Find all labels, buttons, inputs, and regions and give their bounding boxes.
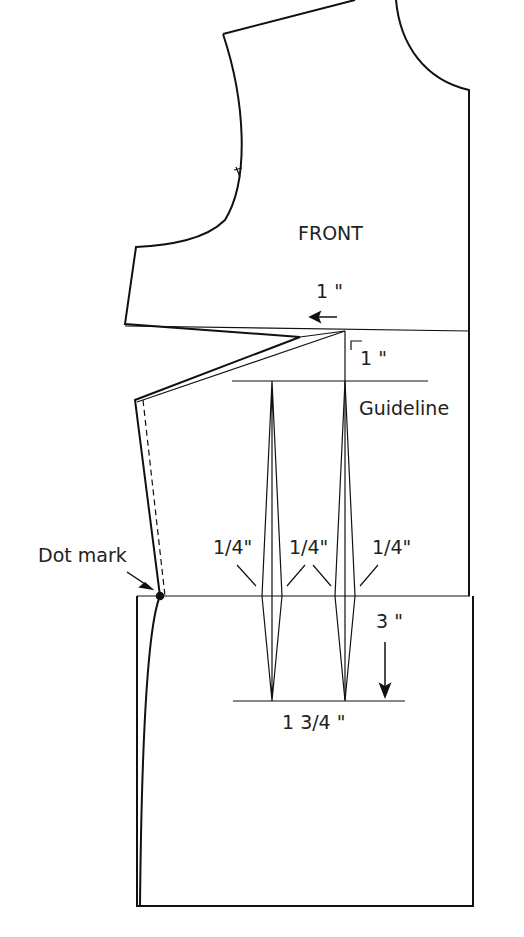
title-front: FRONT [298, 224, 363, 243]
label-guideline: Guideline [359, 399, 449, 418]
label-dart-width-3: 1/4" [372, 538, 411, 557]
label-dart-spacing: 1 3/4 " [282, 713, 346, 732]
label-dart-width-2: 1/4" [289, 538, 328, 557]
dashed-seam [143, 400, 165, 596]
dot-mark [157, 593, 164, 600]
dart-leg [300, 331, 345, 337]
bodice-outline [125, 0, 469, 596]
dart-leg [137, 331, 345, 402]
label-shift: 1 " [316, 282, 343, 301]
label-dot-mark: Dot mark [38, 546, 127, 565]
side-seam-curve [140, 596, 160, 906]
label-dart-length: 3 " [376, 612, 403, 631]
label-dart-width-1: 1/4" [213, 538, 252, 557]
label-guide-offset: 1 " [360, 349, 387, 368]
pattern-drawing [0, 0, 524, 937]
skirt-outline [137, 596, 473, 906]
dart-1 [262, 381, 282, 701]
